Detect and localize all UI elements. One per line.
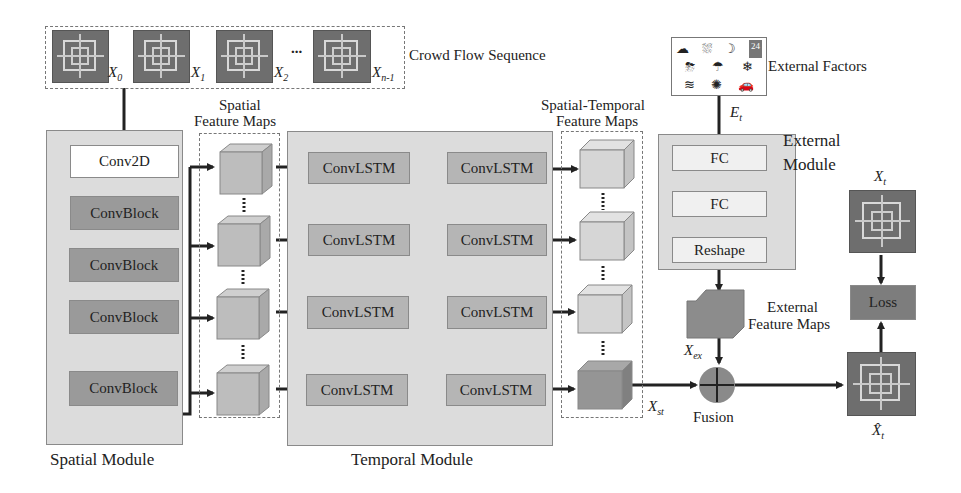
convlstm-r4-c1: ConvLSTM <box>306 374 408 406</box>
st-feature-maps-label-1: Spatial-Temporal <box>541 97 645 114</box>
et-label: Et <box>730 104 742 123</box>
xt-prediction-label: X̂t <box>872 422 884 441</box>
xst-label: Xst <box>648 398 664 417</box>
temporal-module-label: Temporal Module <box>351 450 473 470</box>
spatial-feature-maps-label-1: Spatial <box>219 97 261 114</box>
convlstm-r3-c2: ConvLSTM <box>447 296 547 329</box>
external-module-label-2: Module <box>783 155 836 175</box>
frame-label-n-1: Xn-1 <box>372 64 395 83</box>
external-module-label-1: External <box>783 131 841 151</box>
fc-block-1: FC <box>672 145 767 171</box>
frame-label-2: X2 <box>274 64 288 83</box>
rain-cloud-icon: ⛆ <box>702 40 712 58</box>
convblock-1: ConvBlock <box>70 196 179 230</box>
spatial-feature-maps-label-2: Feature Maps <box>194 113 276 130</box>
frame-thumbnail-0 <box>52 30 109 83</box>
spatial-module-label: Spatial Module <box>50 450 154 470</box>
frame-thumbnail-n-1 <box>313 30 371 83</box>
convlstm-r2-c2: ConvLSTM <box>447 224 547 256</box>
loss-block: Loss <box>850 285 916 320</box>
convlstm-r4-c2: ConvLSTM <box>446 374 546 406</box>
frame-thumbnail-1 <box>133 30 190 83</box>
convblock-3: ConvBlock <box>69 300 179 334</box>
target-frame-thumbnail <box>849 190 916 253</box>
spatial-feature-maps-box <box>199 133 280 418</box>
conv2d-block: Conv2D <box>70 145 179 178</box>
xex-label: Xex <box>684 342 702 361</box>
convlstm-r1-c2: ConvLSTM <box>447 152 547 184</box>
moon-icon: ☽ <box>724 40 736 58</box>
convblock-2: ConvBlock <box>69 248 179 282</box>
convlstm-r2-c1: ConvLSTM <box>308 224 410 256</box>
convlstm-r1-c1: ConvLSTM <box>308 152 410 184</box>
st-feature-maps-label-2: Feature Maps <box>556 113 638 130</box>
external-factors-label: External Factors <box>768 58 867 75</box>
snow-icon: ❄ <box>742 58 753 76</box>
convlstm-r3-c1: ConvLSTM <box>307 296 409 329</box>
calendar-icon: 24 <box>749 40 762 58</box>
storm-icon: ☂ <box>712 58 724 76</box>
wind-icon: ≋ <box>684 76 695 94</box>
external-feature-maps-label-2: Feature Maps <box>748 316 830 333</box>
cloud-icon: ☁ <box>676 40 689 58</box>
rain-icon: ⛈ <box>685 58 695 76</box>
external-factors-box: ☁ ⛆ ☽ 24 ⛈ ☂ ❄ ≋ ✺ 🚗 <box>671 37 767 96</box>
convblock-4: ConvBlock <box>69 371 178 406</box>
car-icon: 🚗 <box>738 76 754 94</box>
st-feature-maps-box <box>561 131 643 418</box>
fusion-label: Fusion <box>693 409 734 426</box>
external-feature-map-shape <box>687 290 744 338</box>
fire-icon: ✺ <box>711 76 722 94</box>
sequence-ellipsis: ... <box>291 40 302 57</box>
crowd-flow-sequence-label: Crowd Flow Sequence <box>409 47 546 64</box>
prediction-frame-thumbnail <box>847 352 916 416</box>
frame-thumbnail-2 <box>216 30 273 83</box>
xt-target-label: Xt <box>874 168 886 187</box>
fc-block-2: FC <box>672 191 767 217</box>
frame-label-1: X1 <box>191 64 205 83</box>
external-feature-maps-label-1: External <box>767 299 818 316</box>
frame-label-0: X0 <box>108 64 122 83</box>
reshape-block: Reshape <box>672 237 767 263</box>
